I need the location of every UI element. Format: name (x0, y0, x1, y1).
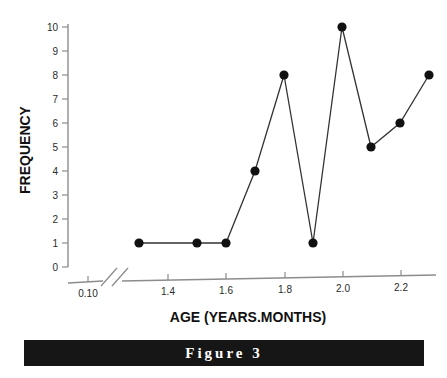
data-point (395, 118, 404, 127)
y-tick-label-0: 0 (52, 262, 58, 273)
y-tick-label-1: 1 (52, 238, 58, 249)
y-tick-label-2: 2 (52, 214, 58, 225)
x-tick-label-origin: 0.10 (78, 288, 98, 299)
y-tick-label-8: 8 (52, 70, 58, 81)
x-tick-label-2-0: 2.0 (336, 283, 350, 294)
x-axis-line (122, 275, 436, 281)
y-tick-label-3: 3 (52, 190, 58, 201)
x-tick-label-1-8: 1.8 (278, 284, 292, 295)
data-point (221, 238, 230, 247)
figure-caption-text: Figure 3 (185, 345, 262, 362)
axis-break-icon (101, 268, 128, 286)
data-point (279, 70, 288, 79)
figure-caption-bar: Figure 3 (24, 340, 424, 366)
y-tick-label-9: 9 (52, 46, 58, 57)
data-point (366, 142, 375, 151)
y-axis-title: FREQUENCY (17, 105, 33, 194)
y-tick-label-7: 7 (52, 94, 58, 105)
x-axis-title: AGE (YEARS.MONTHS) (170, 309, 326, 325)
data-point (337, 22, 346, 31)
y-tick-label-10: 10 (47, 22, 59, 33)
x-tick-label-1-4: 1.4 (161, 286, 175, 297)
figure-container: 10 9 8 7 6 5 4 3 2 1 0 0.10 1.4 1. (0, 0, 447, 378)
data-point (250, 166, 259, 175)
data-point-markers (134, 22, 433, 247)
frequency-line-chart: 10 9 8 7 6 5 4 3 2 1 0 0.10 1.4 1. (0, 0, 447, 340)
y-tick-label-4: 4 (52, 166, 58, 177)
x-tick-label-2-2: 2.2 (394, 282, 408, 293)
data-point (424, 70, 433, 79)
y-tick-label-6: 6 (52, 118, 58, 129)
y-axis-ticks (62, 27, 68, 267)
data-series-line (139, 27, 429, 243)
y-tick-label-5: 5 (52, 142, 58, 153)
data-point (192, 238, 201, 247)
x-tick-label-1-6: 1.6 (219, 285, 233, 296)
data-point (134, 238, 143, 247)
x-axis-stub-left (68, 281, 103, 283)
data-point (308, 238, 317, 247)
